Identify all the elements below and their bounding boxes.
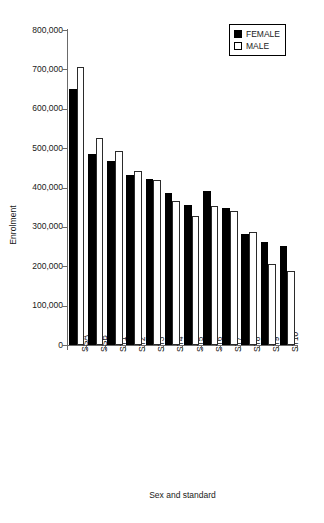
- bar-ssb-female: [88, 154, 96, 345]
- bar-st5-female: [184, 205, 192, 345]
- x-axis-tick-mark: [278, 346, 279, 350]
- bar-st7-male: [230, 211, 238, 345]
- bar-st6-female: [203, 191, 211, 345]
- bar-st3-male: [153, 180, 161, 345]
- bar-st3-female: [146, 179, 154, 345]
- x-axis-tick-mark: [240, 346, 241, 350]
- bar-st4-female: [165, 193, 173, 345]
- x-axis-tick-mark: [297, 346, 298, 350]
- x-axis-tick-mark: [105, 346, 106, 350]
- x-axis-tick-mark: [259, 346, 260, 350]
- y-axis-tick-mark: [62, 69, 67, 70]
- y-axis-tick-label: 400,000: [11, 183, 63, 192]
- legend-label-male: MALE: [246, 42, 269, 51]
- bar-st4-male: [172, 201, 180, 345]
- plot-area: [67, 30, 297, 345]
- y-axis-tick-mark: [62, 188, 67, 189]
- y-axis-tick-label: 200,000: [11, 262, 63, 271]
- y-axis-tick-label: 800,000: [11, 26, 63, 35]
- x-axis-tick-mark: [125, 346, 126, 350]
- x-axis-tick-mark: [220, 346, 221, 350]
- bar-st9-male: [268, 264, 276, 345]
- y-axis-tick-label: 700,000: [11, 65, 63, 74]
- bar-st8-female: [241, 234, 249, 345]
- y-axis-tick-label: 100,000: [11, 301, 63, 310]
- y-axis-tick-mark: [62, 30, 67, 31]
- x-axis-tick-mark: [201, 346, 202, 350]
- x-axis-title: Sex and standard: [67, 490, 298, 500]
- x-axis-tick-mark: [182, 346, 183, 350]
- bar-st9-female: [261, 242, 269, 345]
- y-axis-tick-mark: [62, 266, 67, 267]
- legend-label-female: FEMALE: [246, 30, 280, 39]
- bar-st2-male: [134, 171, 142, 345]
- legend-swatch-female-icon: [234, 30, 242, 38]
- bar-st6-male: [211, 206, 219, 345]
- bar-ssa-male: [77, 67, 85, 345]
- legend-item-male: MALE: [234, 40, 280, 52]
- bar-ssb-male: [96, 138, 104, 345]
- y-axis-tick-mark: [62, 227, 67, 228]
- y-axis-tick-mark: [62, 109, 67, 110]
- y-axis-tick-label: 500,000: [11, 144, 63, 153]
- bar-st1-female: [107, 161, 115, 345]
- enrolment-bar-chart: Enrolment 0100,000200,000300,000400,0005…: [0, 0, 324, 523]
- chart-legend: FEMALE MALE: [229, 24, 286, 56]
- legend-item-female: FEMALE: [234, 28, 280, 40]
- bar-st8-male: [249, 232, 257, 345]
- legend-swatch-male-icon: [234, 42, 242, 50]
- bar-ssa-female: [69, 89, 77, 345]
- y-axis-tick-label: 600,000: [11, 104, 63, 113]
- bar-st10-female: [280, 246, 288, 345]
- y-axis-tick-mark: [62, 148, 67, 149]
- bar-st10-male: [287, 271, 295, 345]
- bar-st2-female: [126, 175, 134, 345]
- y-axis-tick-mark: [62, 306, 67, 307]
- x-axis-tick-mark: [67, 346, 68, 350]
- x-axis-tick-mark: [163, 346, 164, 350]
- x-axis-tick-mark: [144, 346, 145, 350]
- x-axis-tick-mark: [86, 346, 87, 350]
- bar-st1-male: [115, 151, 123, 346]
- bar-st7-female: [222, 208, 230, 345]
- y-axis-tick-label: 0: [11, 341, 63, 350]
- bar-st5-male: [192, 216, 200, 345]
- y-axis-tick-labels: 0100,000200,000300,000400,000500,000600,…: [9, 0, 63, 523]
- y-axis-tick-label: 300,000: [11, 222, 63, 231]
